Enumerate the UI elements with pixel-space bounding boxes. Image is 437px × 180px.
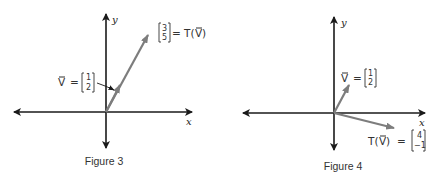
matrix-entry-bottom: 2 xyxy=(368,78,373,87)
x-axis-label: x xyxy=(186,116,192,127)
right-bracket-icon xyxy=(168,23,170,42)
figure-caption: Figure 4 xyxy=(324,160,363,172)
transformed-vector-label: 3 5 = T( V ) xyxy=(159,23,206,42)
left-bracket-icon xyxy=(365,69,367,87)
transformed-vector-arrow xyxy=(334,113,394,128)
figure-4: x y V = 1 2 T( V ) = 4 −1 Figure 4 xyxy=(243,17,426,172)
matrix-entry-bottom: 5 xyxy=(162,33,167,42)
x-axis-label: x xyxy=(419,117,425,128)
y-axis-label: y xyxy=(340,17,347,28)
transform-prefix: T( xyxy=(367,135,379,147)
left-bracket-icon xyxy=(159,23,161,42)
matrix-entry-bottom: 2 xyxy=(86,83,91,92)
right-bracket-icon xyxy=(374,69,376,87)
transform-prefix: T( xyxy=(183,27,195,39)
vector-v-arrow xyxy=(334,85,349,113)
y-axis-label: y xyxy=(111,14,118,25)
equals-sign: = xyxy=(172,27,181,39)
matrix-entry-bottom: −1 xyxy=(414,141,426,150)
vector-v-label: V = 1 2 xyxy=(58,73,94,92)
matrix-entry-top: 1 xyxy=(86,73,91,82)
matrix-entry-top: 4 xyxy=(417,131,422,140)
equals-sign: = xyxy=(70,76,79,88)
transform-suffix: ) xyxy=(386,135,390,147)
matrix-entry-top: 3 xyxy=(162,24,167,33)
equals-sign: = xyxy=(353,72,362,84)
figure-caption: Figure 3 xyxy=(85,155,124,167)
equals-sign: = xyxy=(397,135,406,147)
vector-v-name: V xyxy=(58,76,66,88)
right-bracket-icon xyxy=(92,73,94,92)
vector-v-name: V xyxy=(341,72,349,84)
transformed-vector-label: T( V ) = 4 −1 xyxy=(367,130,426,151)
transform-suffix: ) xyxy=(202,27,206,39)
figure-3: x y V = 1 2 3 5 = T( V ) xyxy=(14,14,206,167)
left-bracket-icon xyxy=(82,73,84,92)
matrix-entry-top: 1 xyxy=(368,69,373,78)
diagram-canvas: x y V = 1 2 3 5 = T( V ) xyxy=(0,0,437,180)
vector-v-label: V = 1 2 xyxy=(341,69,376,87)
